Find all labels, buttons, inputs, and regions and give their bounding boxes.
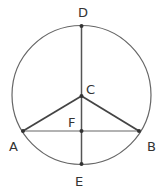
point-A (21, 129, 25, 133)
point-F (80, 129, 84, 133)
label-E: E (75, 174, 83, 189)
label-B: B (147, 139, 156, 154)
label-F: F (68, 115, 75, 130)
segment-CB (82, 96, 140, 131)
point-C (80, 94, 84, 98)
point-D (80, 24, 84, 28)
geometry-diagram: D C F A B E (0, 0, 167, 189)
label-A: A (9, 139, 18, 154)
point-B (137, 129, 141, 133)
label-C: C (86, 82, 95, 97)
point-E (80, 162, 84, 166)
label-D: D (78, 5, 88, 20)
